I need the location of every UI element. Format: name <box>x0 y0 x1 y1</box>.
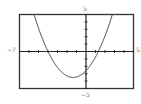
x-min-label: −7 <box>7 47 16 53</box>
parabola-curve <box>34 15 112 78</box>
y-max-label: 5 <box>83 6 87 12</box>
parabola-graph <box>0 0 141 104</box>
y-min-label: −5 <box>81 92 90 98</box>
x-max-label: 5 <box>136 47 140 53</box>
